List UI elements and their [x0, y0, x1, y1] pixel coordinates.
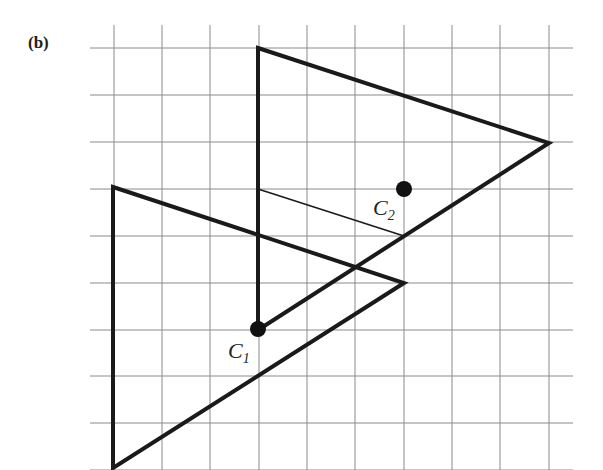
grid: [90, 25, 573, 470]
panel-label: (b): [28, 33, 49, 52]
centroid-c2-point: [396, 181, 412, 197]
diagram-canvas: (b) C1 C2: [0, 0, 603, 470]
centroid-c1-point: [250, 321, 266, 337]
centroid-c2-label: C2: [373, 195, 395, 223]
centroid-c1-label: C1: [228, 338, 250, 366]
